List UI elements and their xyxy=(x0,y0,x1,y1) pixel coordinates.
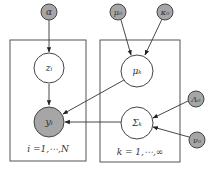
edge-lambda0-sigmak xyxy=(153,101,188,118)
edge-kappa0-muk xyxy=(145,19,162,55)
label-sigma-k: Σₖ xyxy=(131,118,142,128)
label-kappa0: κ₀ xyxy=(160,8,170,17)
label-y: yᵢ xyxy=(44,116,53,127)
label-alpha: α xyxy=(46,7,52,17)
plate-left-label: i =1,⋯,N xyxy=(27,144,70,154)
edge-mu0-muk xyxy=(121,20,131,55)
plate-right-label: k = 1,⋯,∞ xyxy=(117,147,164,157)
label-mu0: μ₀ xyxy=(114,8,123,17)
edge-nu0-sigmak xyxy=(153,127,189,137)
graphical-model-diagram: α μ₀ κ₀ zᵢ yᵢ μₖ Σₖ Λ₀ ν₀ i =1,⋯,N k = 1… xyxy=(0,0,220,172)
label-z: zᵢ xyxy=(45,63,53,73)
label-mu-k: μₖ xyxy=(132,66,142,76)
label-lambda0: Λ₀ xyxy=(191,95,202,104)
edge-muk-y xyxy=(63,80,124,114)
label-nu0: ν₀ xyxy=(193,136,202,145)
